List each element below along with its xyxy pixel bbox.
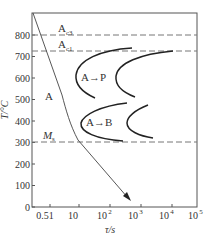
bainite-finish-curve <box>127 105 153 138</box>
svg-text:A: A <box>58 38 66 50</box>
y-tick-label: 500 <box>15 94 30 105</box>
region-austenite-label: A <box>45 90 53 102</box>
x-tick-label: 10 2 <box>97 208 112 221</box>
y-tick-label: 200 <box>15 159 30 170</box>
svg-text:10: 10 <box>188 210 198 221</box>
svg-text:c3: c3 <box>66 29 73 37</box>
svg-text:4: 4 <box>170 208 174 216</box>
y-tick-label: 700 <box>15 51 30 62</box>
x-tick-labels: 0.51 10 10 2 10 3 10 4 10 5 <box>36 208 203 221</box>
region-pearlite-label: A→P <box>81 71 106 83</box>
svg-text:c1: c1 <box>66 45 73 53</box>
region-bainite-label: A→B <box>86 116 112 128</box>
pearlite-finish-curve <box>116 51 173 97</box>
y-tick-label: 300 <box>15 137 30 148</box>
svg-text:10: 10 <box>159 210 169 221</box>
svg-text:10: 10 <box>97 210 107 221</box>
x-tick-label: 10 <box>68 210 78 221</box>
svg-text:2: 2 <box>108 208 112 216</box>
y-tick-label: 600 <box>15 73 30 84</box>
y-tick-labels: 0 100 200 300 400 500 600 700 800 <box>15 30 30 213</box>
x-tick-label: 0.51 <box>36 210 54 221</box>
y-tick-label: 800 <box>15 30 30 41</box>
x-tick-label: 10 4 <box>159 208 174 221</box>
ttt-diagram: 0 100 200 300 400 500 600 700 800 T/°C 0… <box>0 0 214 249</box>
plot-frame <box>32 13 197 207</box>
y-axis-title: T/°C <box>0 100 10 119</box>
y-tick-label: 0 <box>25 202 30 213</box>
y-tick-label: 400 <box>15 116 30 127</box>
x-tick-label: 10 5 <box>188 208 203 221</box>
svg-text:A: A <box>58 22 66 34</box>
svg-text:s: s <box>52 135 55 143</box>
x-axis-title: τ/s <box>105 224 115 235</box>
svg-text:5: 5 <box>199 208 203 216</box>
svg-text:10: 10 <box>128 210 138 221</box>
svg-text:3: 3 <box>139 208 143 216</box>
x-tick-label: 10 3 <box>128 208 143 221</box>
y-tick-label: 100 <box>15 180 30 191</box>
ms-label: M s <box>42 129 55 143</box>
